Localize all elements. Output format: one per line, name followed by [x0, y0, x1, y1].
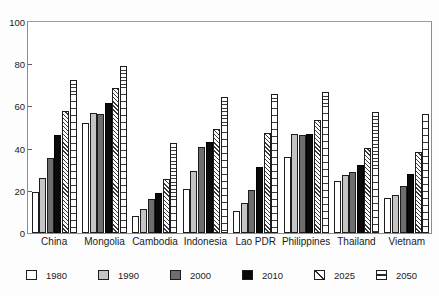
x-tick-label: Philippines: [282, 236, 330, 247]
bar[interactable]: [384, 198, 391, 233]
bar[interactable]: [112, 88, 119, 233]
x-tick-label: Vietnam: [389, 236, 426, 247]
x-tick-label: Lao PDR: [235, 236, 276, 247]
x-tick-label: Thailand: [337, 236, 375, 247]
legend-label: 2025: [334, 270, 355, 281]
bar[interactable]: [183, 189, 190, 233]
bar[interactable]: [264, 133, 271, 233]
bar[interactable]: [97, 114, 104, 233]
legend-swatch-icon: [242, 270, 253, 280]
legend-swatch-icon: [314, 270, 325, 280]
bar[interactable]: [140, 209, 147, 233]
bar[interactable]: [47, 158, 54, 233]
bar[interactable]: [213, 129, 220, 233]
bar-group: [233, 22, 278, 233]
bar-group: [32, 22, 77, 233]
bar[interactable]: [90, 113, 97, 233]
bar[interactable]: [322, 92, 329, 233]
bar[interactable]: [32, 192, 39, 233]
x-axis: ChinaMongoliaCambodiaIndonesiaLao PDRPhi…: [0, 236, 439, 250]
bar-group: [284, 22, 329, 233]
bar[interactable]: [39, 178, 46, 233]
bar-group: [82, 22, 127, 233]
y-tick-mark: [28, 149, 32, 150]
legend-label: 1990: [118, 270, 139, 281]
bar[interactable]: [54, 135, 61, 233]
bar[interactable]: [407, 174, 414, 233]
bar[interactable]: [357, 165, 364, 233]
x-tick-label: Mongolia: [84, 236, 125, 247]
bar[interactable]: [334, 181, 341, 233]
chart-legend: 198019902000201020252050: [26, 268, 426, 286]
bar[interactable]: [400, 186, 407, 233]
legend-label: 2010: [262, 270, 283, 281]
legend-item-2050[interactable]: 2050: [376, 268, 417, 282]
bar[interactable]: [120, 66, 127, 233]
y-tick-mark: [28, 64, 32, 65]
bar[interactable]: [291, 134, 298, 233]
legend-label: 2000: [190, 270, 211, 281]
y-tick-mark: [28, 106, 32, 107]
legend-label: 1980: [46, 270, 67, 281]
bar[interactable]: [198, 147, 205, 234]
bar[interactable]: [206, 142, 213, 233]
bar[interactable]: [372, 112, 379, 233]
y-tick-label: 80: [3, 60, 25, 69]
y-axis: 020406080100: [0, 22, 25, 233]
bar[interactable]: [314, 120, 321, 233]
bar-group: [334, 22, 379, 233]
x-tick-label: Cambodia: [132, 236, 178, 247]
bar-group: [132, 22, 177, 233]
legend-item-2010[interactable]: 2010: [242, 268, 283, 282]
bar[interactable]: [163, 179, 170, 233]
x-tick-label: China: [41, 236, 67, 247]
bar[interactable]: [256, 167, 263, 233]
legend-swatch-icon: [376, 270, 387, 280]
bar[interactable]: [349, 172, 356, 233]
legend-item-1990[interactable]: 1990: [98, 268, 139, 282]
bar[interactable]: [155, 193, 162, 233]
x-tick-label: Indonesia: [184, 236, 227, 247]
bar[interactable]: [342, 175, 349, 233]
bar[interactable]: [392, 195, 399, 233]
bar[interactable]: [422, 114, 429, 233]
bar[interactable]: [415, 152, 422, 233]
bar[interactable]: [70, 80, 77, 233]
bar[interactable]: [271, 94, 278, 233]
chart-title: [0, 0, 439, 2]
bar[interactable]: [299, 135, 306, 233]
legend-label: 2050: [396, 270, 417, 281]
y-tick-label: 60: [3, 102, 25, 111]
y-tick-label: 20: [3, 186, 25, 195]
legend-item-2025[interactable]: 2025: [314, 268, 355, 282]
bar[interactable]: [148, 199, 155, 233]
plot-area: [28, 22, 431, 233]
bar[interactable]: [190, 171, 197, 233]
bar[interactable]: [284, 157, 291, 233]
y-tick-mark: [28, 191, 32, 192]
legend-item-2000[interactable]: 2000: [170, 268, 211, 282]
bar[interactable]: [364, 148, 371, 233]
bar[interactable]: [306, 134, 313, 233]
bar[interactable]: [105, 103, 112, 233]
bar[interactable]: [132, 216, 139, 233]
legend-swatch-icon: [170, 270, 181, 280]
legend-item-1980[interactable]: 1980: [26, 268, 67, 282]
bar[interactable]: [241, 203, 248, 233]
y-tick-label: 40: [3, 144, 25, 153]
legend-swatch-icon: [26, 270, 37, 280]
y-tick-label: 100: [3, 18, 25, 27]
bar[interactable]: [233, 211, 240, 233]
bar[interactable]: [62, 111, 69, 233]
bar[interactable]: [248, 190, 255, 233]
chart-screenshot: 020406080100 ChinaMongoliaCambodiaIndone…: [0, 0, 439, 296]
legend-swatch-icon: [98, 270, 109, 280]
bar[interactable]: [82, 123, 89, 233]
bar-group: [183, 22, 228, 233]
bar-group: [384, 22, 429, 233]
bar[interactable]: [221, 97, 228, 233]
bar[interactable]: [170, 143, 177, 233]
